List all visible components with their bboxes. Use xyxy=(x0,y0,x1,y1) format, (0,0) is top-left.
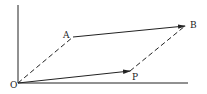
vector-diagram: O A B P xyxy=(0,0,207,94)
label-a: A xyxy=(62,30,70,40)
label-o: O xyxy=(10,80,17,90)
label-p: P xyxy=(132,72,138,82)
vector-ab xyxy=(73,26,185,37)
dashed-oa xyxy=(18,37,73,83)
dashed-pb xyxy=(130,26,185,71)
label-b: B xyxy=(190,20,197,30)
vector-op xyxy=(18,71,130,83)
